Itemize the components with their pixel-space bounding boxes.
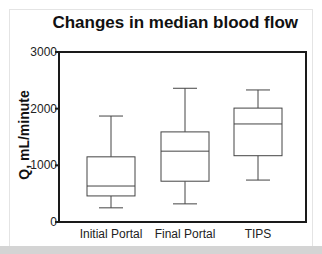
x-tick-label: Final Portal <box>155 227 216 241</box>
box-plot: 0100020003000Initial PortalFinal PortalT… <box>0 0 322 254</box>
y-tick-label: 3000 <box>30 45 57 59</box>
iqr-box <box>87 157 135 196</box>
iqr-box <box>161 132 209 181</box>
x-tick-label: TIPS <box>245 227 272 241</box>
y-tick-label: 0 <box>50 215 57 229</box>
x-tick-label: Initial Portal <box>80 227 143 241</box>
iqr-box <box>234 108 282 156</box>
y-tick-label: 1000 <box>30 158 57 172</box>
y-tick-label: 2000 <box>30 102 57 116</box>
